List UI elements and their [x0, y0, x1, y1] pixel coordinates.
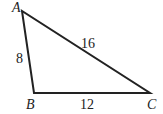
triangle-abc: [22, 11, 150, 93]
vertex-c-label: C: [147, 97, 157, 112]
side-bc-label: 12: [80, 97, 94, 112]
vertex-b-label: B: [26, 97, 35, 112]
side-ab-label: 8: [16, 51, 23, 66]
triangle-diagram: A B C 8 16 12: [0, 0, 163, 114]
vertex-a-label: A: [11, 0, 21, 15]
side-ac-label: 16: [81, 36, 95, 51]
